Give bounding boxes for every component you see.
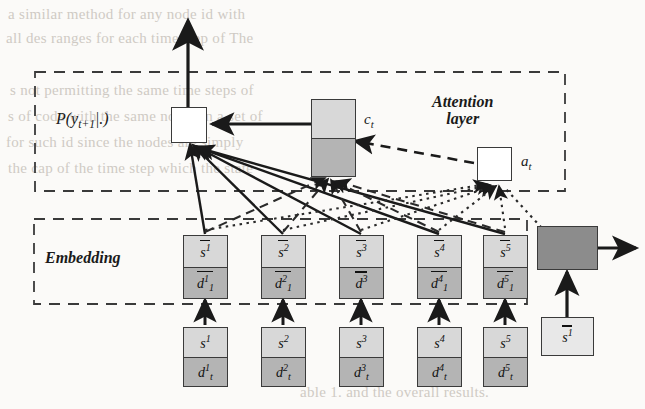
input-cell-top: s1 — [184, 328, 227, 357]
query-input-label: s1 — [562, 327, 573, 346]
input-cell: s5d5t — [483, 327, 528, 387]
attention-weight-box — [477, 147, 512, 181]
output-probability-box — [171, 107, 207, 143]
query-input-label-sup: 1 — [568, 327, 573, 338]
output-probability-label: P(yt+1|.) — [56, 110, 109, 130]
input-cell: s1d1t — [183, 327, 228, 387]
embedding-cell-bottom: d51 — [484, 267, 527, 299]
input-cell: s3d3t — [339, 327, 384, 387]
context-vector-box-top — [312, 100, 355, 138]
embedding-cell: s5d51 — [483, 235, 528, 299]
embedding-cell: s2d21 — [261, 235, 306, 299]
attention-layer-label-line2: layer — [446, 110, 479, 127]
input-cell-bottom: d3t — [340, 357, 383, 387]
query-input-box: s1 — [541, 317, 594, 356]
query-state-box — [537, 226, 598, 270]
embedding-cell-bottom: d21 — [262, 267, 305, 299]
input-cell-top: s2 — [262, 328, 305, 357]
embedding-cell-top: s5 — [484, 236, 527, 267]
input-cell-bottom: d4t — [418, 357, 461, 387]
context-vector-label-sub: t — [371, 118, 374, 130]
embedding-cell: s1d11 — [183, 235, 228, 299]
embedding-cell-top: s3 — [340, 236, 383, 267]
input-cell: s2d2t — [261, 327, 306, 387]
embedding-cell-bottom: d3 — [340, 267, 383, 299]
attention-weight-label-text: a — [521, 153, 529, 169]
attention-layer-label: Attention layer — [432, 93, 493, 127]
embedding-cell: s4d41 — [417, 235, 462, 299]
embedding-cell-top: s4 — [418, 236, 461, 267]
output-probability-label-tail: |.) — [95, 110, 109, 127]
attention-weight-label: at — [521, 153, 532, 172]
attention-architecture-figure: a similar method for any node id with al… — [0, 0, 645, 409]
input-cell: s4d4t — [417, 327, 462, 387]
embedding-cell-bottom: d11 — [184, 267, 227, 299]
input-cell-top: s5 — [484, 328, 527, 357]
attention-layer-label-line1: Attention — [432, 93, 493, 110]
embedding-cell: s3d3 — [339, 235, 384, 299]
input-cell-top: s3 — [340, 328, 383, 357]
embedding-label: Embedding — [45, 249, 121, 267]
output-probability-label-text: P(y — [56, 110, 78, 127]
output-probability-label-sub: t+1 — [78, 118, 95, 130]
input-cell-top: s4 — [418, 328, 461, 357]
attention-weight-label-sub: t — [529, 160, 532, 172]
context-vector-box-bottom — [312, 138, 355, 177]
input-cell-bottom: d1t — [184, 357, 227, 387]
embedding-cell-top: s1 — [184, 236, 227, 267]
attention-to-context-arrow — [355, 141, 474, 163]
embedding-cell-top: s2 — [262, 236, 305, 267]
input-cell-bottom: d2t — [262, 357, 305, 387]
embedding-cell-bottom: d41 — [418, 267, 461, 299]
context-vector-label: ct — [364, 111, 374, 130]
context-vector-label-text: c — [364, 111, 371, 127]
context-vector-box — [311, 99, 356, 177]
input-cell-bottom: d5t — [484, 357, 527, 387]
